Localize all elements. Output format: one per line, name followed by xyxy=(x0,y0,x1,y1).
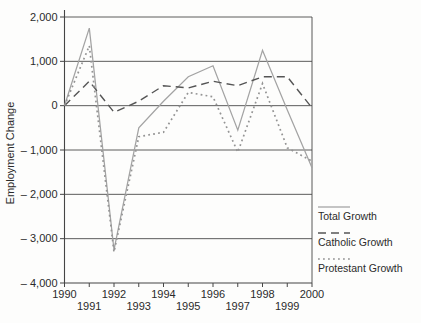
dashed-line-sample-icon xyxy=(318,231,350,235)
y-tick-label: – 3,000 xyxy=(21,232,58,244)
y-tick-label: – 1,000 xyxy=(21,144,58,156)
y-tick-label: 2,000 xyxy=(30,11,58,23)
legend-label-protestant-growth: Protestant Growth xyxy=(318,262,403,274)
x-tick-label: 2000 xyxy=(300,288,324,300)
y-tick-label: 1,000 xyxy=(30,55,58,67)
legend-label-total-growth: Total Growth xyxy=(318,210,403,222)
dotted-line-sample-icon xyxy=(318,257,350,261)
solid-line-sample-icon xyxy=(318,205,350,209)
x-tick-label: 1990 xyxy=(52,288,76,300)
y-tick-label: 0 xyxy=(51,99,57,111)
x-tick-label: 1999 xyxy=(275,300,299,312)
legend-item-total-growth: Total Growth xyxy=(318,205,403,222)
x-tick-label: 1992 xyxy=(102,288,126,300)
x-tick-label: 1998 xyxy=(250,288,274,300)
y-tick-label: – 2,000 xyxy=(21,188,58,200)
x-tick-label: 1997 xyxy=(226,300,250,312)
x-tick-label: 1995 xyxy=(176,300,200,312)
legend-item-protestant-growth: Protestant Growth xyxy=(318,257,403,274)
legend-label-catholic-growth: Catholic Growth xyxy=(318,236,403,248)
x-tick-label: 1996 xyxy=(201,288,225,300)
legend: Total Growth Catholic Growth Protestant … xyxy=(318,205,403,283)
y-tick-label: – 4,000 xyxy=(21,277,58,289)
x-tick-label: 1994 xyxy=(151,288,175,300)
series-line-catholic-growth xyxy=(65,77,313,113)
x-tick-label: 1991 xyxy=(77,300,101,312)
legend-item-catholic-growth: Catholic Growth xyxy=(318,231,403,248)
x-tick-label: 1993 xyxy=(127,300,151,312)
